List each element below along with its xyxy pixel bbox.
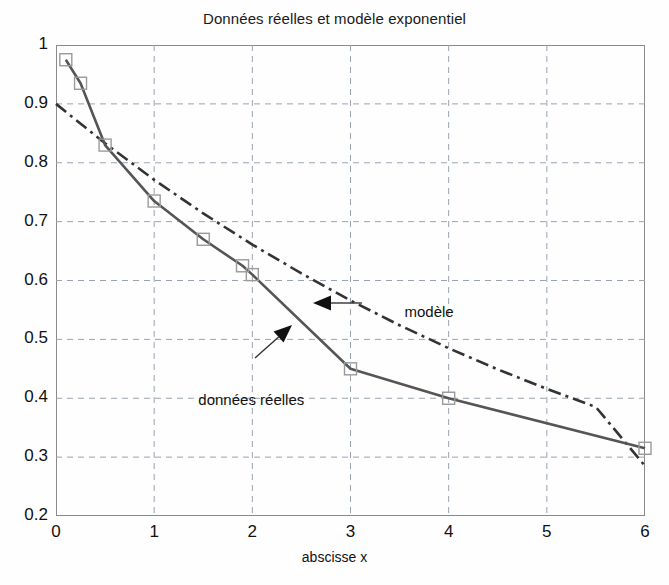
gridlines-group <box>56 45 645 516</box>
data-line <box>66 60 645 449</box>
y-tick-label: 1 <box>2 34 48 54</box>
data-annotation-arrow-head <box>274 325 292 343</box>
y-tick-label: 0.8 <box>2 152 48 172</box>
model-annotation-arrow-head <box>313 296 331 311</box>
y-tick-label: 0.9 <box>2 93 48 113</box>
y-tick-label: 0.3 <box>2 446 48 466</box>
x-tick-label: 0 <box>36 522 76 542</box>
data-series-group <box>66 60 645 449</box>
y-tick-label: 0.6 <box>2 270 48 290</box>
x-tick-label: 2 <box>232 522 272 542</box>
data-annotation-arrow-shaft <box>255 337 279 358</box>
chart-root: Données réelles et modèle exponentiel 10… <box>0 0 669 585</box>
x-tick-label: 5 <box>527 522 567 542</box>
annotation-label: données réelles <box>198 391 304 408</box>
x-tick-label: 3 <box>331 522 371 542</box>
annotation-label: modèle <box>404 303 453 320</box>
x-tick-label: 6 <box>625 522 665 542</box>
chart-canvas <box>0 0 669 585</box>
x-tick-label: 1 <box>134 522 174 542</box>
x-tick-label: 4 <box>429 522 469 542</box>
y-tick-label: 0.4 <box>2 387 48 407</box>
data-markers-group <box>60 54 651 455</box>
x-axis-label: abscisse x <box>0 549 669 565</box>
y-tick-label: 0.7 <box>2 211 48 231</box>
y-tick-label: 0.5 <box>2 328 48 348</box>
